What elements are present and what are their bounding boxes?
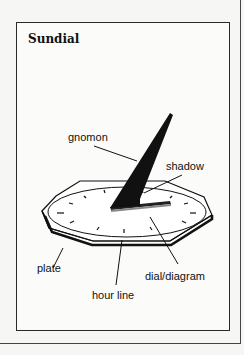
label-hour-line: hour line xyxy=(92,289,134,301)
sundial-illustration xyxy=(0,0,244,355)
label-dial: dial/diagram xyxy=(145,270,205,282)
label-shadow: shadow xyxy=(166,160,204,172)
label-plate: plate xyxy=(37,262,61,274)
label-gnomon: gnomon xyxy=(68,131,108,143)
